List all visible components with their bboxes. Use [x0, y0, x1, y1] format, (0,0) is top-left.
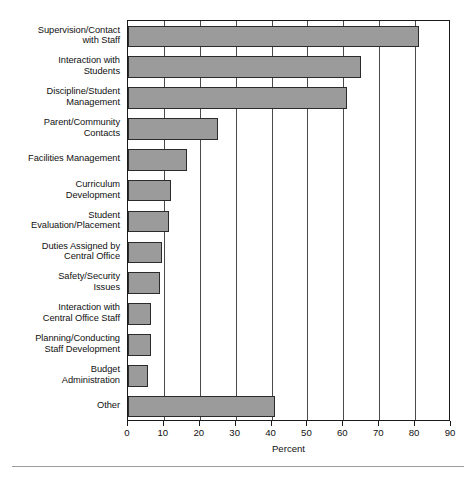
category-label-line: Students	[0, 66, 120, 77]
category-label-line: Central Office	[0, 251, 120, 262]
x-tick-label: 40	[265, 427, 276, 439]
category-label: Interaction withCentral Office Staff	[0, 302, 123, 324]
footer-divider	[12, 466, 464, 467]
bar	[128, 180, 171, 202]
x-tick-label: 10	[158, 427, 169, 439]
category-label-line: Interaction with	[0, 302, 120, 313]
category-label-line: Evaluation/Placement	[0, 220, 120, 231]
category-label-line: Interaction with	[0, 55, 120, 66]
category-label: Parent/CommunityContacts	[0, 117, 123, 139]
x-tick-30	[235, 421, 236, 426]
x-tick-label: 90	[445, 427, 456, 439]
x-tick-label: 50	[301, 427, 312, 439]
category-label-line: Supervision/Contact	[0, 25, 120, 36]
x-axis-title: Percent	[127, 443, 450, 454]
category-label: Facilities Management	[0, 153, 123, 164]
bar	[128, 396, 275, 418]
bar	[128, 87, 347, 109]
x-tick-80	[414, 421, 415, 426]
category-label-line: Planning/Conducting	[0, 333, 120, 344]
bar	[128, 272, 160, 294]
bar	[128, 118, 218, 140]
category-label: Duties Assigned byCentral Office	[0, 241, 123, 263]
category-label-column: Supervision/Contactwith StaffInteraction…	[0, 20, 123, 421]
category-label: StudentEvaluation/Placement	[0, 210, 123, 232]
category-label-line: Issues	[0, 282, 120, 293]
bar	[128, 334, 151, 356]
bar	[128, 211, 169, 233]
bar-series	[128, 21, 449, 420]
category-label-line: Management	[0, 97, 120, 108]
category-label-line: with Staff	[0, 35, 120, 46]
category-label: CurriculumDevelopment	[0, 179, 123, 201]
category-label-line: Contacts	[0, 128, 120, 139]
x-tick-label: 30	[229, 427, 240, 439]
plot-area	[127, 20, 450, 421]
bar	[128, 303, 151, 325]
category-label: Discipline/StudentManagement	[0, 86, 123, 108]
category-label-line: Duties Assigned by	[0, 241, 120, 252]
category-label-line: Safety/Security	[0, 271, 120, 282]
category-label: Supervision/Contactwith Staff	[0, 25, 123, 47]
x-tick-label: 20	[193, 427, 204, 439]
category-label-line: Other	[0, 400, 120, 411]
category-label-line: Administration	[0, 375, 120, 386]
category-label: BudgetAdministration	[0, 364, 123, 386]
bar	[128, 365, 148, 387]
bar-chart-figure: Supervision/Contactwith StaffInteraction…	[0, 0, 475, 482]
bar	[128, 242, 162, 264]
category-label-line: Parent/Community	[0, 117, 120, 128]
x-tick-label: 70	[373, 427, 384, 439]
category-label: Interaction withStudents	[0, 55, 123, 77]
x-tick-50	[306, 421, 307, 426]
category-label-line: Budget	[0, 364, 120, 375]
x-tick-10	[163, 421, 164, 426]
category-label: Other	[0, 400, 123, 411]
category-label-line: Staff Development	[0, 344, 120, 355]
x-tick-label: 60	[337, 427, 348, 439]
category-label: Planning/ConductingStaff Development	[0, 333, 123, 355]
x-tick-60	[342, 421, 343, 426]
x-tick-label: 0	[124, 427, 129, 439]
category-label-line: Discipline/Student	[0, 86, 120, 97]
category-label-line: Facilities Management	[0, 153, 120, 164]
x-tick-label: 80	[409, 427, 420, 439]
category-label-line: Development	[0, 190, 120, 201]
x-tick-20	[199, 421, 200, 426]
x-tick-40	[271, 421, 272, 426]
category-label: Safety/SecurityIssues	[0, 271, 123, 293]
x-tick-70	[378, 421, 379, 426]
bar	[128, 56, 361, 78]
category-label-line: Student	[0, 210, 120, 221]
bar	[128, 149, 187, 171]
x-tick-0	[127, 421, 128, 426]
x-tick-90	[450, 421, 451, 426]
category-label-line: Curriculum	[0, 179, 120, 190]
category-label-line: Central Office Staff	[0, 313, 120, 324]
bar	[128, 26, 419, 48]
x-axis-tick-labels: 0102030405060708090	[0, 427, 475, 441]
